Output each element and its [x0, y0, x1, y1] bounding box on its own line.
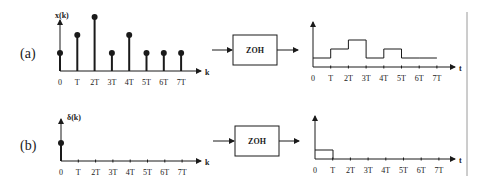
- tick-label: 6T: [417, 166, 426, 175]
- zoh-label: ZOH: [246, 46, 265, 55]
- tick-label: 2T: [346, 166, 355, 175]
- tick-label: 3T: [107, 78, 116, 87]
- sample-dot: [178, 50, 184, 56]
- tick-label: 5T: [142, 78, 151, 87]
- sample-dot: [92, 14, 98, 20]
- tick-labels: 0T2T3T4T5T6T7T: [59, 168, 187, 177]
- sample-dot: [57, 50, 63, 56]
- tick-label: T: [76, 168, 81, 177]
- y-axis-label: x(k): [55, 11, 69, 20]
- row-a-input-plot: x(k) k 0T2T3T4T5T6T7T: [55, 11, 210, 87]
- tick-label: 3T: [108, 168, 117, 177]
- row-b-input-plot: δ(k) k 0T2T3T4T5T6T7T: [58, 113, 210, 177]
- tick-label: 2T: [90, 78, 99, 87]
- tick-label: 2T: [344, 74, 353, 83]
- tick-label: 7T: [432, 74, 441, 83]
- row-b-zoh: ZOH: [213, 126, 299, 156]
- tick-label: 3T: [362, 74, 371, 83]
- zoh-label: ZOH: [248, 137, 267, 146]
- tick-label: 7T: [178, 168, 187, 177]
- zoh-diagram: (a) x(k) k 0T2T3T4T5T6T7T ZOH t 0T2T3T4T…: [0, 0, 494, 182]
- row-a-output-plot: t 0T2T3T4T5T6T7T: [311, 22, 462, 83]
- tick-label: 0: [58, 78, 62, 87]
- tick-label: 6T: [160, 168, 169, 177]
- row-b-label: (b): [20, 138, 37, 154]
- x-axis-label: k: [205, 68, 210, 77]
- sample-dot: [144, 50, 150, 56]
- tick-label: 0: [59, 168, 63, 177]
- tick-label: 5T: [399, 166, 408, 175]
- tick-label: T: [75, 78, 80, 87]
- tick-label: 3T: [364, 166, 373, 175]
- tick-label: 4T: [125, 78, 134, 87]
- tick-label: T: [330, 166, 335, 175]
- tick-label: T: [328, 74, 333, 83]
- tick-label: 6T: [415, 74, 424, 83]
- sample-dot: [74, 32, 80, 38]
- row-b-output-plot: t 0T2T3T4T5T6T7T: [313, 116, 462, 175]
- staircase-signal: [315, 150, 333, 159]
- tick-label: 5T: [397, 74, 406, 83]
- tick-label: 5T: [143, 168, 152, 177]
- tick-label: 2T: [91, 168, 100, 177]
- row-a-zoh: ZOH: [212, 35, 298, 65]
- tick-label: 7T: [177, 78, 186, 87]
- tick-label: 4T: [126, 168, 135, 177]
- row-a-label: (a): [20, 46, 36, 62]
- stem-plot: [58, 140, 182, 163]
- sample-dot: [161, 50, 167, 56]
- tick-label: 0: [313, 166, 317, 175]
- tick-label: 6T: [159, 78, 168, 87]
- y-axis-label: δ(k): [67, 113, 81, 122]
- tick-labels: 0T2T3T4T5T6T7T: [313, 158, 443, 176]
- staircase-signal: [313, 40, 437, 58]
- x-axis-label: k: [205, 158, 210, 167]
- x-axis-label: t: [459, 64, 462, 73]
- sample-dot: [58, 140, 64, 146]
- sample-dot: [126, 32, 132, 38]
- tick-labels: 0T2T3T4T5T6T7T: [58, 78, 186, 87]
- tick-label: 7T: [434, 166, 443, 175]
- tick-label: 4T: [379, 74, 388, 83]
- sample-dot: [109, 50, 115, 56]
- tick-label: 0: [311, 74, 315, 83]
- tick-label: 4T: [381, 166, 390, 175]
- stem-plot: [57, 14, 184, 71]
- tick-labels: 0T2T3T4T5T6T7T: [311, 66, 441, 84]
- x-axis-label: t: [459, 156, 462, 165]
